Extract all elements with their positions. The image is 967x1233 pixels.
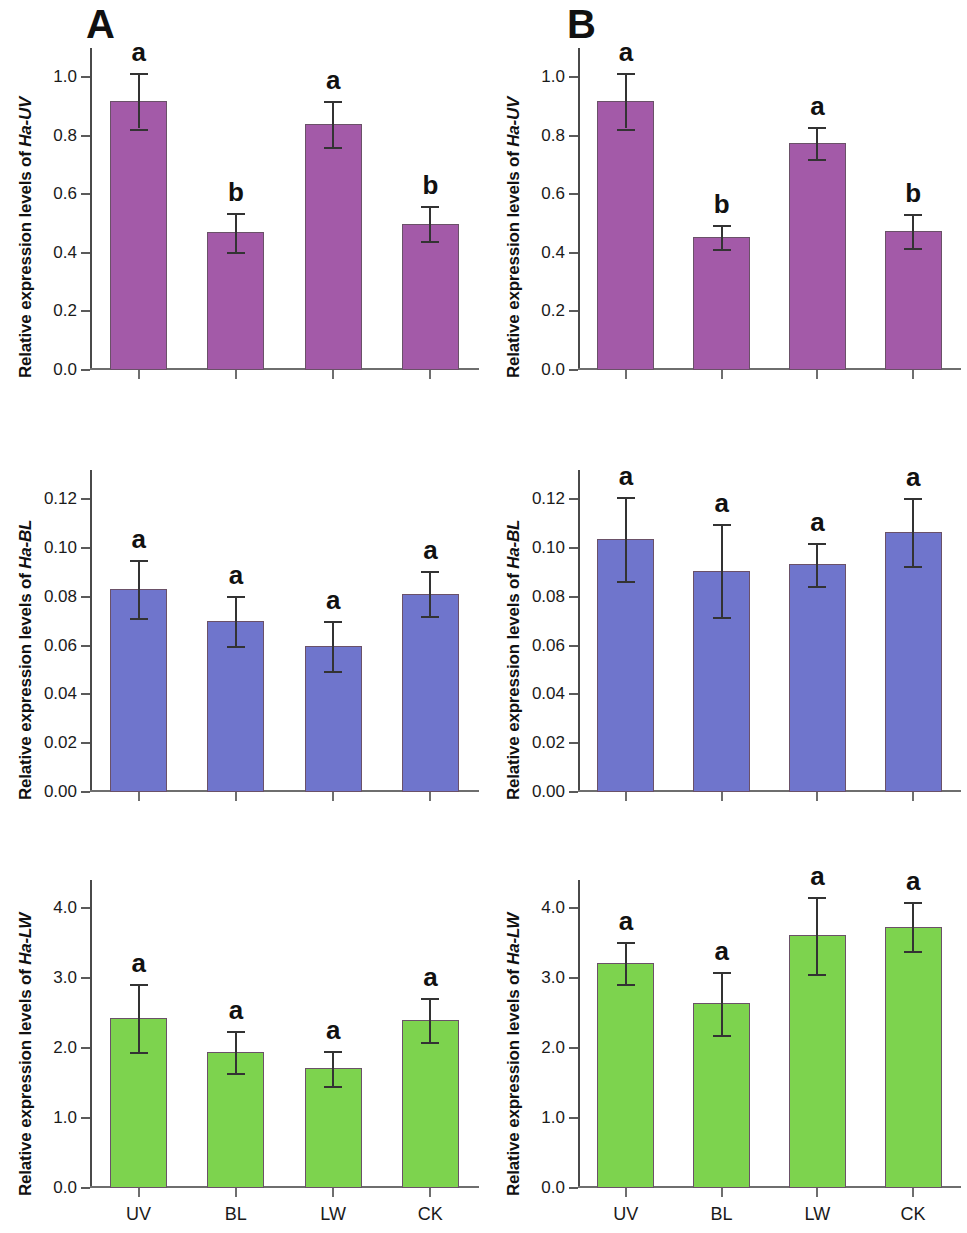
y-axis-tick [81,596,90,598]
x-axis-tick [721,1188,723,1197]
error-bar-cap-bottom [713,1035,731,1037]
panel-label-a: A [86,4,115,44]
error-bar-cap-top [227,1031,245,1033]
x-axis-tick [235,1188,237,1197]
chart-a-bl: Relative expression levels of Ha-BL0.000… [90,470,479,792]
error-bar-cap-top [808,543,826,545]
y-axis-tick [569,596,578,598]
error-bar-cap-top [421,571,439,573]
y-axis-tick-label: 0.04 [44,684,77,704]
y-axis-tick [569,76,578,78]
bar-b-lw-uv [597,963,654,1188]
x-axis-tick [138,792,140,801]
error-bar-cap-top [808,127,826,129]
significance-letter-ck: b [422,172,438,198]
error-bar-cap-top [617,942,635,944]
significance-letter-uv: a [131,526,145,552]
error-bar-cap-bottom [324,147,342,149]
y-axis-tick [569,1187,578,1189]
error-bar-cap-top [227,213,245,215]
bar-a-uv-ck [402,224,459,370]
x-axis-tick-label-uv: UV [613,1204,638,1225]
x-axis-tick [625,370,627,379]
significance-letter-lw: a [326,587,340,613]
x-axis-tick [235,370,237,379]
significance-letter-ck: a [423,964,437,990]
error-bar [235,596,237,646]
y-axis-tick [81,742,90,744]
x-axis-tick [429,370,431,379]
y-axis-tick-label: 0.6 [53,184,77,204]
error-bar-cap-bottom [324,1086,342,1088]
bar-b-uv-bl [693,237,750,370]
y-axis-tick [569,1047,578,1049]
y-axis-tick-label: 0.6 [541,184,565,204]
plot-area-b-bl: 0.000.020.040.060.080.100.12aaaa [578,470,961,792]
error-bar [332,621,334,671]
error-bar-cap-top [227,596,245,598]
error-bar-cap-top [130,984,148,986]
significance-letter-bl: a [229,997,243,1023]
chart-a-uv: Relative expression levels of Ha-UV0.00.… [90,48,479,370]
panel-label-b: B [567,4,596,44]
error-bar-cap-top [904,214,922,216]
y-axis-tick [81,977,90,979]
y-axis-tick [569,907,578,909]
y-axis-tick [569,498,578,500]
y-axis-tick [569,693,578,695]
significance-letter-ck: a [423,537,437,563]
y-axis-tick-label: 0.0 [53,360,77,380]
y-axis-line [578,470,580,792]
y-axis-tick [81,310,90,312]
significance-letter-bl: a [229,562,243,588]
y-axis-tick-label: 0.00 [44,782,77,802]
y-axis-title-text: Relative expression levels of [16,147,35,378]
error-bar [816,127,818,159]
y-axis-tick [569,193,578,195]
bar-b-bl-lw [789,564,846,792]
error-bar-cap-bottom [617,984,635,986]
error-bar-cap-bottom [130,129,148,131]
y-axis-tick-label: 0.8 [53,126,77,146]
significance-letter-uv: a [131,950,145,976]
x-axis-tick [816,1188,818,1197]
significance-letter-lw: a [810,93,824,119]
bar-a-bl-ck [402,594,459,792]
y-axis-tick-label: 2.0 [53,1038,77,1058]
error-bar-cap-bottom [713,249,731,251]
error-bar [721,524,723,617]
y-axis-title-gene: Ha-UV [16,97,35,147]
error-bar-cap-bottom [904,248,922,250]
error-bar [912,498,914,566]
error-bar [625,942,627,984]
error-bar-cap-top [904,902,922,904]
plot-area-a-lw: 0.01.02.03.04.0UVaBLaLWaCKa [90,880,479,1188]
y-axis-title-text: Relative expression levels of [16,569,35,800]
y-axis-tick [81,791,90,793]
y-axis-tick [81,193,90,195]
error-bar [332,101,334,147]
error-bar-cap-top [808,897,826,899]
error-bar [816,543,818,585]
y-axis-line [90,880,92,1188]
x-axis-tick [816,792,818,801]
y-axis-tick-label: 0.06 [44,636,77,656]
y-axis-title-gene: Ha-BL [504,520,523,569]
y-axis-title-gene: Ha-LW [16,913,35,965]
y-axis-tick-label: 0.10 [532,538,565,558]
chart-b-lw: Relative expression levels of Ha-LW0.01.… [578,880,961,1188]
bar-a-lw-ck [402,1020,459,1188]
error-bar-cap-bottom [904,566,922,568]
error-bar [912,902,914,951]
error-bar-cap-top [713,225,731,227]
error-bar [429,571,431,616]
error-bar-cap-top [130,560,148,562]
error-bar-cap-top [421,206,439,208]
plot-area-b-lw: 0.01.02.03.04.0UVaBLaLWaCKa [578,880,961,1188]
y-axis-tick-label: 0.2 [541,301,565,321]
significance-letter-bl: a [714,938,728,964]
x-axis-tick-label-bl: BL [711,1204,733,1225]
bar-a-uv-uv [110,101,167,370]
y-axis-tick [569,645,578,647]
y-axis-tick-label: 0.08 [44,587,77,607]
